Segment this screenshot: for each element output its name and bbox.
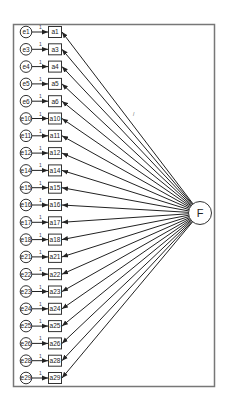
observed-label: a25 bbox=[50, 322, 61, 329]
error-label: e21 bbox=[21, 253, 32, 260]
factor-loading-arrow bbox=[62, 215, 189, 239]
fixed-loading-label: 1 bbox=[39, 180, 42, 186]
indicator-row: e291a29 bbox=[20, 222, 192, 384]
fixed-loading-label: 1 bbox=[39, 145, 42, 151]
fixed-loading-label: 1 bbox=[39, 335, 42, 341]
factor-loading-arrow bbox=[62, 84, 192, 205]
indicator-row: e161a16 bbox=[20, 197, 188, 212]
factor-loading-arrow bbox=[62, 119, 191, 207]
indicator-row: e261a26 bbox=[20, 221, 191, 349]
observed-label: a5 bbox=[51, 80, 59, 87]
observed-label: a18 bbox=[50, 236, 61, 243]
indicator-row: e41a4 bbox=[20, 59, 192, 205]
error-label: e22 bbox=[21, 271, 32, 278]
factor-loading-arrow bbox=[62, 221, 192, 360]
error-label: e26 bbox=[21, 340, 32, 347]
factor-loading-arrow bbox=[62, 216, 189, 256]
error-label: e3 bbox=[22, 46, 30, 53]
observed-label: a22 bbox=[50, 271, 61, 278]
indicator-row: e221a22 bbox=[20, 218, 189, 280]
observed-label: a29 bbox=[50, 374, 61, 381]
factor-loading-arrow bbox=[62, 220, 191, 309]
factor-loading-arrow bbox=[62, 136, 190, 208]
path-diagram: e11a1e31a3e41a4e51a5e61a6e101a10e111a11e… bbox=[0, 0, 231, 407]
error-label: e4 bbox=[22, 63, 30, 70]
fixed-loading-label: 1 bbox=[39, 301, 42, 307]
error-label: e29 bbox=[21, 374, 32, 381]
factor-loading-arrow bbox=[62, 214, 189, 223]
factor-loading-arrow bbox=[62, 221, 192, 344]
error-label: e18 bbox=[21, 236, 32, 243]
observed-label: a10 bbox=[50, 115, 61, 122]
factor-loading-arrow bbox=[62, 153, 189, 208]
fixed-loading-label: 1 bbox=[39, 76, 42, 82]
error-label: e16 bbox=[21, 201, 32, 208]
error-label: e6 bbox=[22, 98, 30, 105]
factor-loading-arrow bbox=[62, 219, 190, 292]
observed-label: a15 bbox=[50, 184, 61, 191]
indicator-rows: e11a1e31a3e41a4e51a5e61a6e101a10e111a11e… bbox=[20, 24, 193, 384]
error-label: e10 bbox=[21, 115, 32, 122]
fixed-loading-label: 1 bbox=[39, 214, 42, 220]
factor-loading-arrow bbox=[62, 205, 189, 212]
error-label: e28 bbox=[21, 357, 32, 364]
observed-label: a24 bbox=[50, 305, 61, 312]
fixed-loading-label: 1 bbox=[39, 353, 42, 359]
factor-loading-arrow bbox=[62, 67, 192, 205]
observed-label: a26 bbox=[50, 340, 61, 347]
observed-label: a21 bbox=[50, 253, 61, 260]
error-label: e5 bbox=[22, 80, 30, 87]
error-label: e11 bbox=[21, 132, 32, 139]
factor-label: F bbox=[197, 207, 204, 219]
observed-label: a11 bbox=[50, 132, 61, 139]
diagram-canvas: e11a1e31a3e41a4e51a5e61a6e101a10e111a11e… bbox=[0, 0, 231, 407]
observed-label: a1 bbox=[51, 28, 59, 35]
error-label: e25 bbox=[21, 322, 32, 329]
indicator-row: e151a15 bbox=[20, 180, 188, 211]
fixed-loading-label: 1 bbox=[39, 24, 42, 30]
factor-loading-arrow bbox=[62, 32, 193, 204]
fixed-loading-label: 1 bbox=[39, 284, 42, 290]
factor-loading-arrow bbox=[62, 170, 189, 209]
fixed-loading-label: 1 bbox=[39, 249, 42, 255]
indicator-row: e171a17 bbox=[20, 214, 188, 228]
error-label: e23 bbox=[21, 288, 32, 295]
fixed-loading-label: 1 bbox=[39, 128, 42, 134]
observed-label: a14 bbox=[50, 167, 61, 174]
fixed-loading-label: 1 bbox=[39, 370, 42, 376]
observed-label: a6 bbox=[51, 98, 59, 105]
fixed-loading-label: 1 bbox=[39, 266, 42, 272]
error-label: e1 bbox=[22, 28, 30, 35]
indicator-row: e231a23 bbox=[20, 219, 190, 298]
fixed-loading-label: 1 bbox=[39, 197, 42, 203]
factor-loading-arrow bbox=[62, 218, 189, 275]
observed-label: a3 bbox=[51, 46, 59, 53]
latent-factor: F bbox=[189, 202, 212, 225]
fixed-loading-label: 1 bbox=[39, 318, 42, 324]
observed-label: a28 bbox=[50, 357, 61, 364]
observed-label: a4 bbox=[51, 63, 59, 70]
fixed-loading-label: 1 bbox=[39, 59, 42, 65]
error-label: e12 bbox=[21, 149, 32, 156]
stray-mark: / bbox=[133, 111, 135, 117]
indicator-row: e121a12 bbox=[20, 145, 189, 208]
observed-label: a23 bbox=[50, 288, 61, 295]
error-label: e17 bbox=[21, 219, 32, 226]
fixed-loading-label: 1 bbox=[39, 232, 42, 238]
indicator-row: e31a3 bbox=[20, 41, 192, 204]
fixed-loading-label: 1 bbox=[39, 41, 42, 47]
fixed-loading-label: 1 bbox=[39, 93, 42, 99]
error-label: e15 bbox=[21, 184, 32, 191]
error-label: e14 bbox=[21, 167, 32, 174]
fixed-loading-label: 1 bbox=[39, 111, 42, 117]
fixed-loading-label: 1 bbox=[39, 162, 42, 168]
error-label: e24 bbox=[21, 305, 32, 312]
observed-label: a12 bbox=[50, 149, 61, 156]
observed-label: a17 bbox=[50, 219, 61, 226]
observed-label: a16 bbox=[50, 201, 61, 208]
